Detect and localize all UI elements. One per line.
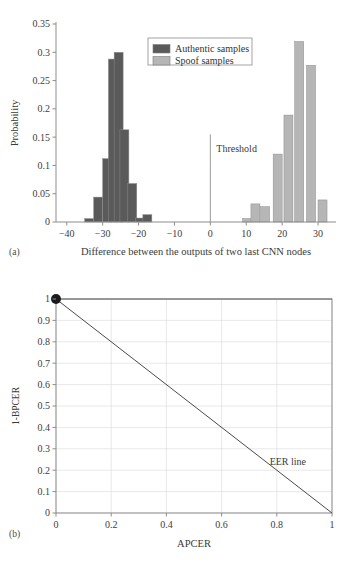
x-tick-label: 20 [277, 228, 287, 239]
x-tick-label: −20 [131, 228, 147, 239]
y-tick-label: 0.15 [33, 132, 51, 143]
x-tick-label: 0.2 [105, 519, 118, 530]
y-tick-label: 0.3 [38, 47, 51, 58]
det-curve-chart: EER line00.10.20.30.40.50.60.70.80.9100.… [0, 281, 343, 562]
y-tick-label: 0.25 [33, 75, 51, 86]
x-tick-label: 0.4 [160, 519, 173, 530]
y-tick-label: 0.6 [38, 379, 51, 390]
histogram-bar [251, 204, 260, 222]
x-tick-label: 10 [241, 228, 251, 239]
y-tick-label: 0.35 [33, 18, 51, 29]
histogram-bar [143, 215, 152, 222]
legend-label: Spoof samples [175, 55, 234, 66]
y-tick-label: 0 [45, 507, 50, 518]
spoof-bars [243, 42, 327, 222]
eer-line-label: EER line [270, 456, 307, 467]
histogram-chart: Threshold00.050.10.150.20.250.30.35−40−3… [0, 0, 343, 281]
histogram-bar [243, 219, 252, 222]
histogram-bar [284, 115, 293, 222]
histogram-bar [318, 200, 327, 222]
y-axis-title: 1-BPCER [11, 386, 21, 425]
legend-label: Authentic samples [175, 43, 249, 54]
y-tick-label: 1 [45, 293, 50, 304]
histogram-bar [85, 219, 94, 222]
y-tick-label: 0.05 [33, 188, 51, 199]
x-axis-title: Difference between the outputs of two la… [81, 246, 311, 257]
panel-b-label: (b) [9, 529, 20, 539]
x-tick-label: −10 [167, 228, 183, 239]
histogram-bar [120, 130, 129, 222]
y-tick-label: 0.4 [38, 422, 51, 433]
histogram-bar [273, 154, 282, 222]
y-tick-label: 0.2 [38, 465, 51, 476]
histogram-bar [295, 42, 304, 222]
y-tick-label: 0.5 [38, 400, 51, 411]
x-tick-label: 0 [54, 519, 59, 530]
histogram-bar [307, 65, 316, 222]
y-axis-title: Probability [9, 99, 20, 146]
authentic-bars [85, 52, 152, 222]
panel-a-label: (a) [9, 247, 20, 257]
y-tick-label: 0.1 [38, 486, 51, 497]
threshold-label: Threshold [216, 143, 257, 154]
x-tick-label: 1 [330, 519, 335, 530]
histogram-bar [128, 184, 137, 222]
legend-swatch [153, 57, 170, 66]
histogram-bar [94, 197, 103, 222]
x-tick-label: 30 [313, 228, 323, 239]
legend-swatch [153, 45, 170, 54]
histogram-bar [261, 207, 270, 222]
figure-panel-b: EER line00.10.20.30.40.50.60.70.80.9100.… [0, 281, 343, 562]
y-tick-label: 0.8 [38, 336, 51, 347]
x-axis-title: APCER [177, 538, 211, 549]
y-tick-label: 0.7 [38, 358, 51, 369]
figure-panel-a: Threshold00.050.10.150.20.250.30.35−40−3… [0, 0, 343, 281]
x-tick-label: 0.6 [215, 519, 228, 530]
x-tick-label: 0 [208, 228, 213, 239]
y-tick-label: 0.1 [38, 160, 51, 171]
y-tick-label: 0 [45, 216, 50, 227]
x-tick-label: −30 [95, 228, 111, 239]
y-tick-label: 0.9 [38, 315, 51, 326]
x-tick-label: −40 [59, 228, 75, 239]
legend: Authentic samplesSpoof samples [148, 38, 252, 66]
x-tick-label: 0.8 [271, 519, 284, 530]
y-tick-label: 0.2 [38, 103, 51, 114]
y-tick-label: 0.3 [38, 443, 51, 454]
